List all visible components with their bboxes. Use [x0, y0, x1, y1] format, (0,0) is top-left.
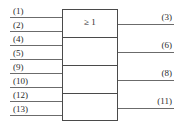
input-lead-10 — [10, 87, 62, 88]
input-pin-label-4: (4) — [13, 35, 24, 44]
input-lead-2 — [10, 31, 62, 32]
input-pin-label-1: (1) — [13, 7, 24, 16]
output-pin-label-3: (3) — [134, 13, 172, 22]
input-pin-label-12: (12) — [13, 91, 28, 100]
output-pin-label-8: (8) — [134, 69, 172, 78]
input-lead-4 — [10, 45, 62, 46]
output-lead-8 — [118, 80, 174, 81]
input-lead-13 — [10, 115, 62, 116]
input-pin-label-2: (2) — [13, 21, 24, 30]
input-lead-5 — [10, 59, 62, 60]
output-pin-label-6: (6) — [134, 41, 172, 50]
output-lead-3 — [118, 24, 174, 25]
input-lead-1 — [10, 17, 62, 18]
section-divider-2 — [62, 65, 118, 66]
section-divider-3 — [62, 93, 118, 94]
logic-gate-diagram: ≥ 1 (1) (2) (4) (5) (9) (10) (12) (13) (… — [0, 0, 184, 128]
output-pin-label-11: (11) — [134, 97, 172, 106]
input-pin-label-10: (10) — [13, 77, 28, 86]
input-lead-12 — [10, 101, 62, 102]
input-pin-label-9: (9) — [13, 63, 24, 72]
output-lead-6 — [118, 52, 174, 53]
output-lead-11 — [118, 108, 174, 109]
section-divider-1 — [62, 37, 118, 38]
input-lead-9 — [10, 73, 62, 74]
or-gate-qualifier-symbol: ≥ 1 — [62, 18, 118, 27]
input-pin-label-13: (13) — [13, 105, 28, 114]
input-pin-label-5: (5) — [13, 49, 24, 58]
